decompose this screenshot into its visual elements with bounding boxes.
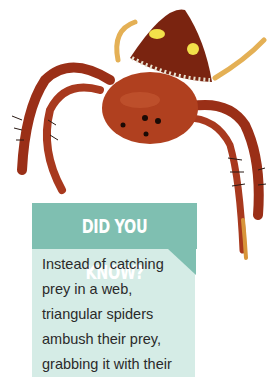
callout-line: triangular spiders: [42, 302, 192, 327]
callout-title: DID YOU KNOW?: [55, 203, 174, 249]
callout-line: prey in a web,: [42, 277, 192, 302]
callout-line: grabbing it with their: [42, 352, 192, 377]
callout-line: Instead of catching: [42, 252, 192, 277]
callout-line: ambush their prey,: [42, 327, 192, 352]
callout-body: Instead of catching prey in a web, trian…: [42, 252, 192, 377]
